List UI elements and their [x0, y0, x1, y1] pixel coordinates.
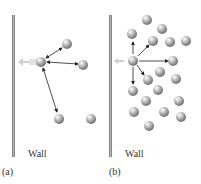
molecule [148, 36, 158, 46]
molecule [128, 56, 138, 66]
molecule [159, 107, 169, 117]
molecule [141, 96, 151, 106]
caption-a: (a) [2, 166, 13, 177]
molecule [171, 74, 181, 84]
force-arrow-a [18, 58, 30, 66]
wall-b [109, 15, 112, 157]
caption-b: (b) [109, 166, 121, 177]
molecule [143, 75, 153, 85]
molecule [181, 36, 191, 46]
molecule [78, 60, 88, 70]
panel-b [109, 15, 191, 157]
molecule [174, 96, 184, 106]
molecule [153, 85, 163, 95]
wall-label-a: Wall [28, 148, 47, 159]
molecule [155, 67, 165, 77]
molecule [54, 114, 64, 124]
molecule [129, 107, 139, 117]
molecule [62, 39, 72, 49]
wall-a [12, 15, 15, 157]
molecule [86, 114, 96, 124]
molecule [142, 15, 152, 25]
molecule [127, 29, 137, 39]
molecule [144, 121, 154, 131]
force-arrow-b [114, 58, 124, 64]
molecule [36, 57, 46, 67]
molecule [176, 112, 186, 122]
molecule [168, 56, 178, 66]
molecule [165, 37, 175, 47]
panel-a [12, 15, 96, 157]
wall-label-b: Wall [125, 148, 144, 159]
molecule [157, 24, 167, 34]
molecule [128, 86, 138, 96]
